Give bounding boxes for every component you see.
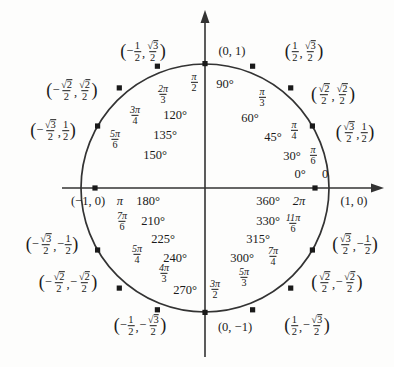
- minus-sign: −: [36, 123, 43, 137]
- radian-label-360: 2π: [293, 195, 306, 208]
- left-paren: (: [336, 125, 342, 140]
- fraction-numerator: √2: [78, 271, 91, 283]
- right-paren: ): [317, 44, 323, 59]
- fraction-numerator: √2: [343, 271, 356, 283]
- fraction-denominator: 6: [111, 139, 118, 151]
- fraction-numerator: 3π: [209, 278, 221, 289]
- left-paren: (: [39, 275, 45, 290]
- fraction-numerator: √3: [44, 119, 57, 131]
- coordinate-label-330: (√32,−12): [332, 233, 378, 257]
- right-paren: ): [324, 318, 330, 333]
- fraction-denominator: 2: [190, 82, 197, 94]
- fraction-numerator: √2: [317, 83, 330, 95]
- fraction-numerator: 1: [134, 40, 141, 51]
- radian-label-45: π 4: [290, 120, 298, 142]
- fraction-denominator: 4: [133, 254, 140, 266]
- degree-label-330: 330°: [256, 215, 280, 228]
- fraction-denominator: 2: [321, 282, 328, 294]
- coordinate-label-240: (−12,−√32): [114, 314, 167, 338]
- degree-label-315: 315°: [246, 233, 270, 246]
- minus-sign: −: [139, 318, 146, 332]
- minus-sign: −: [303, 318, 310, 332]
- fraction-denominator: 2: [346, 282, 353, 294]
- fraction-denominator: 2: [307, 51, 314, 63]
- fraction-numerator: 1: [127, 314, 134, 325]
- right-paren: ): [72, 237, 78, 252]
- fraction-denominator: 2: [55, 282, 62, 294]
- fraction-denominator: 2: [320, 94, 327, 106]
- degree-label-300: 300°: [230, 252, 254, 265]
- degree-label-120: 120°: [163, 109, 187, 122]
- left-paren: (: [114, 318, 120, 333]
- coordinate-label-315: (√22,−√22): [311, 271, 362, 295]
- fraction-numerator: 1: [65, 233, 72, 244]
- left-paren: (: [284, 318, 290, 333]
- fraction-denominator: 2: [134, 51, 141, 63]
- fraction-denominator: 2: [150, 325, 157, 337]
- x-axis-arrowhead-icon: [371, 184, 384, 193]
- right-paren: ): [349, 87, 355, 102]
- fraction-numerator: √3: [304, 40, 317, 52]
- coordinate-label-225: (−√22,−√22): [39, 271, 97, 295]
- comma: ,: [66, 277, 69, 291]
- fraction-denominator: 3: [159, 94, 166, 106]
- degree-label-360: 360°: [256, 195, 280, 208]
- minus-sign: −: [126, 44, 133, 58]
- right-paren: ): [357, 275, 363, 290]
- fraction-numerator: √3: [39, 233, 52, 245]
- point-marker-315: [288, 286, 293, 291]
- fraction-numerator: 5π: [131, 243, 143, 254]
- fraction-denominator: 2: [345, 132, 352, 144]
- degree-label-135: 135°: [153, 129, 177, 142]
- coordinate-label-135: (−√22,√22): [46, 79, 97, 103]
- radian-label-30: π 6: [309, 145, 317, 167]
- unit-circle-figure: 0° 30° 45° 60° 90° 120° 135° 150° 180° 2…: [0, 0, 394, 367]
- fraction-numerator: √3: [147, 314, 160, 326]
- fraction-denominator: 2: [81, 282, 88, 294]
- point-marker-45: [288, 85, 293, 90]
- fraction-numerator: 7π: [116, 210, 128, 221]
- fraction-denominator: 6: [309, 155, 316, 167]
- degree-label-60: 60°: [241, 112, 259, 125]
- fraction-numerator: π: [258, 86, 265, 97]
- point-marker-120: [155, 64, 160, 69]
- fraction-numerator: √2: [78, 79, 91, 91]
- degree-label-0: 0°: [294, 168, 305, 181]
- radian-label-150: 5π 6: [108, 129, 121, 151]
- fraction-denominator: 3: [258, 97, 265, 109]
- fraction-denominator: 6: [118, 221, 125, 233]
- radian-label-0: 0: [322, 168, 328, 181]
- point-marker-270: [202, 310, 207, 315]
- radian-label-60: π 3: [258, 87, 266, 109]
- fraction-numerator: π: [290, 119, 297, 130]
- fraction-denominator: 2: [149, 51, 156, 63]
- fraction-denominator: 2: [65, 244, 72, 256]
- minus-sign: −: [336, 275, 343, 289]
- degree-label-150: 150°: [143, 149, 167, 162]
- point-marker-150: [95, 123, 100, 128]
- fraction-denominator: 4: [131, 115, 138, 127]
- fraction-denominator: 2: [342, 244, 349, 256]
- degree-label-30: 30°: [283, 150, 301, 163]
- fraction-denominator: 3: [240, 277, 247, 289]
- comma: ,: [142, 46, 145, 60]
- degree-label-225: 225°: [151, 233, 175, 246]
- fraction-numerator: π: [190, 71, 197, 82]
- fraction-numerator: √3: [339, 233, 352, 245]
- coordinate-label-45: (√22,√22): [311, 83, 355, 107]
- fraction-denominator: 2: [291, 51, 298, 63]
- right-paren: ): [368, 125, 374, 140]
- point-marker-0: [312, 185, 317, 190]
- right-paren: ): [92, 83, 98, 98]
- comma: ,: [300, 46, 303, 60]
- coordinate-label-60: (12,√32): [285, 40, 323, 64]
- right-paren: ): [91, 275, 97, 290]
- minus-sign: −: [70, 275, 77, 289]
- comma: ,: [353, 239, 356, 253]
- fraction-denominator: 6: [289, 223, 296, 235]
- coordinate-label-300: (12,−√32): [284, 314, 330, 338]
- degree-label-210: 210°: [141, 215, 165, 228]
- point-marker-330: [310, 247, 315, 252]
- coordinate-label-bottom: (0, −1): [218, 321, 252, 334]
- fraction-denominator: 2: [364, 244, 371, 256]
